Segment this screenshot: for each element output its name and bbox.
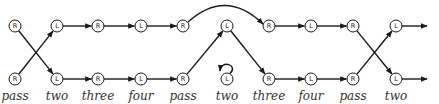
node-letter: R — [351, 22, 356, 30]
node-left-b1: L — [51, 73, 63, 85]
node-left-b9: L — [390, 73, 402, 85]
step-label: two — [46, 89, 68, 103]
node-letter: R — [181, 22, 186, 30]
step-label: four — [127, 89, 154, 103]
node-right-t0: R — [9, 20, 21, 32]
edge-arrow-b4-to-t5 — [187, 31, 223, 74]
step-label: four — [297, 89, 324, 103]
node-left-b5: L — [221, 73, 233, 85]
node-left-t3: L — [135, 20, 147, 32]
edge-arrow-t5-to-b6 — [231, 31, 265, 74]
node-letter: L — [225, 22, 229, 30]
node-letter: R — [267, 22, 272, 30]
node-left-t9: L — [390, 20, 402, 32]
node-right-t8: R — [347, 20, 359, 32]
node-right-b2: R — [92, 73, 104, 85]
step-label: three — [82, 89, 115, 103]
edge-arrow-b5-to-b5 — [220, 64, 233, 73]
step-labels-layer: passtwothreefourpasstwothreefourpasstwo — [1, 89, 407, 103]
node-left-b3: L — [135, 73, 147, 85]
node-right-t4: R — [177, 20, 189, 32]
node-letter: L — [55, 22, 59, 30]
node-letter: L — [225, 75, 229, 83]
step-label: pass — [1, 89, 28, 103]
lr-sequence-diagram: RLRLRLRLRLRLRLRLRLRL passtwothreefourpas… — [0, 0, 439, 104]
node-letter: R — [13, 22, 18, 30]
step-label: two — [385, 89, 407, 103]
node-letter: L — [309, 22, 313, 30]
diagram-canvas: RLRLRLRLRLRLRLRLRLRL passtwothreefourpas… — [0, 0, 439, 104]
step-label: two — [216, 89, 238, 103]
node-letter: L — [394, 75, 398, 83]
node-right-b8: R — [347, 73, 359, 85]
step-label: three — [253, 89, 286, 103]
node-letter: L — [55, 75, 59, 83]
node-right-b4: R — [177, 73, 189, 85]
node-left-b7: L — [305, 73, 317, 85]
node-letter: L — [309, 75, 313, 83]
node-letter: L — [139, 22, 143, 30]
node-letter: R — [267, 75, 272, 83]
node-letter: R — [351, 75, 356, 83]
node-letter: L — [394, 22, 398, 30]
node-letter: R — [96, 75, 101, 83]
node-left-t7: L — [305, 20, 317, 32]
step-label: pass — [169, 89, 196, 103]
node-right-t6: R — [263, 20, 275, 32]
node-letter: L — [139, 75, 143, 83]
node-right-b6: R — [263, 73, 275, 85]
node-right-t2: R — [92, 20, 104, 32]
edges-layer — [19, 5, 427, 79]
node-left-t5: L — [221, 20, 233, 32]
node-left-t1: L — [51, 20, 63, 32]
node-letter: R — [181, 75, 186, 83]
node-letter: R — [13, 75, 18, 83]
step-label: pass — [339, 89, 366, 103]
node-right-b0: R — [9, 73, 21, 85]
node-letter: R — [96, 22, 101, 30]
